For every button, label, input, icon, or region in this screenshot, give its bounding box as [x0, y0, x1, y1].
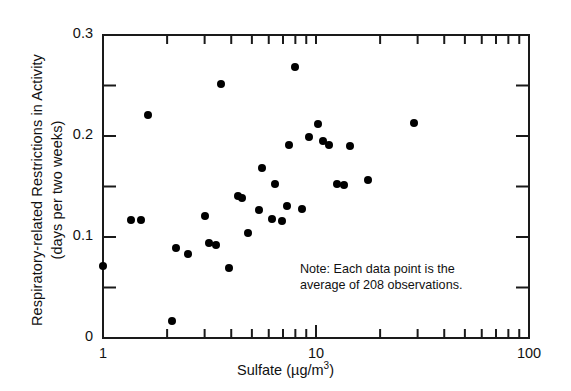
- data-point: [314, 120, 322, 128]
- x-axis-label-close: ): [329, 362, 334, 378]
- data-point: [278, 217, 286, 225]
- data-point: [410, 119, 418, 127]
- x-tick-label: 100: [489, 345, 569, 361]
- data-point: [127, 216, 135, 224]
- x-axis-label-base: Sulfate (µg/m: [237, 362, 324, 378]
- y-tick-label: 0: [0, 328, 93, 344]
- data-point: [271, 180, 279, 188]
- data-point: [291, 63, 299, 71]
- data-point: [244, 229, 252, 237]
- data-point: [168, 317, 176, 325]
- data-point: [255, 206, 263, 214]
- data-point: [201, 212, 209, 220]
- data-point: [346, 142, 354, 150]
- data-point: [217, 80, 225, 88]
- data-point: [268, 215, 276, 223]
- data-point: [298, 205, 306, 213]
- x-axis-label: Sulfate (µg/m3): [0, 360, 571, 378]
- y-tick-label: 0.3: [0, 25, 93, 41]
- data-point: [285, 141, 293, 149]
- chart-annotation: Note: Each data point is the average of …: [300, 262, 462, 293]
- x-tick-label: 10: [276, 345, 356, 361]
- y-tick-label: 0.1: [0, 227, 93, 243]
- data-point: [184, 250, 192, 258]
- data-point: [340, 181, 348, 189]
- chart-annotation-line2: average of 208 observations.: [300, 278, 462, 294]
- y-tick-label: 0.2: [0, 126, 93, 142]
- data-point: [364, 176, 372, 184]
- data-point: [305, 133, 313, 141]
- data-point: [172, 244, 180, 252]
- data-point: [283, 202, 291, 210]
- scatter-chart: 00.10.20.3 110100 Respiratory-related Re…: [0, 0, 571, 391]
- data-point: [258, 164, 266, 172]
- data-point: [99, 262, 107, 270]
- data-point: [325, 141, 333, 149]
- data-point: [144, 111, 152, 119]
- data-point: [137, 216, 145, 224]
- data-point: [212, 241, 220, 249]
- x-tick-label: 1: [63, 345, 143, 361]
- chart-annotation-line1: Note: Each data point is the: [300, 262, 462, 278]
- data-point: [225, 264, 233, 272]
- data-point: [238, 194, 246, 202]
